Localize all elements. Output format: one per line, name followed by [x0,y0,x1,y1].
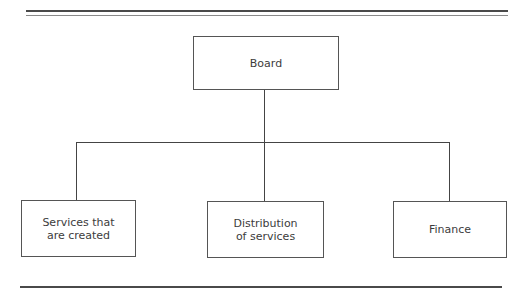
node-finance-label: Finance [429,223,471,236]
connector-trunk [264,90,265,201]
connector-drop-left [76,142,77,200]
node-distribution-label: Distribution of services [233,217,297,243]
node-services-created: Services that are created [21,200,136,257]
org-chart-figure: Board Services that are created Distribu… [0,0,531,290]
node-board: Board [193,36,339,90]
node-board-label: Board [250,57,282,70]
node-services-created-label: Services that are created [42,216,114,242]
connector-drop-right [449,143,450,201]
node-distribution-of-services: Distribution of services [207,201,324,258]
top-rule-thick [26,10,508,12]
node-finance: Finance [393,201,507,258]
top-rule-thin [26,15,508,16]
bottom-rule [20,286,502,288]
connector-branch-horizontal [76,142,450,143]
